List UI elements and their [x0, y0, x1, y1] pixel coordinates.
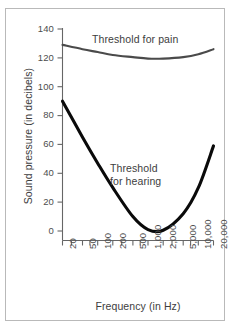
threshold-for-pain-curve: [63, 45, 214, 59]
x-axis-tick-label: 2,000: [167, 224, 178, 248]
x-axis-tick-label: 10,000: [202, 219, 213, 249]
x-axis-tick-label: 1,000: [152, 224, 163, 248]
y-axis-tick-label: 140: [26, 23, 54, 34]
x-axis-tick-label: 500: [137, 232, 148, 248]
x-axis-tick-label: 200: [117, 232, 128, 248]
annotation-threshold-for-hearing: Threshold for hearing: [110, 162, 161, 187]
annotation-line-1: Threshold: [110, 162, 161, 175]
x-axis-tick-label: 5,000: [187, 224, 198, 248]
annotation-line-2: for hearing: [110, 175, 161, 188]
y-axis-title: Sound pressure (in decibels): [22, 61, 34, 211]
x-axis-title: Frequency (in Hz): [62, 300, 214, 312]
annotation-threshold-for-pain: Threshold for pain: [92, 33, 178, 46]
x-axis-tick-label: 100: [102, 232, 113, 248]
data-curves: [63, 45, 214, 232]
x-axis-tick-label: 20,000: [218, 219, 229, 249]
figure-container: 020406080100120140 20501002005001,0002,0…: [0, 0, 232, 331]
y-axis-ticks: [58, 29, 63, 231]
y-axis-tick-label: 0: [26, 225, 54, 236]
x-axis-tick-label: 20: [67, 238, 78, 249]
x-axis-tick-label: 50: [87, 238, 98, 249]
